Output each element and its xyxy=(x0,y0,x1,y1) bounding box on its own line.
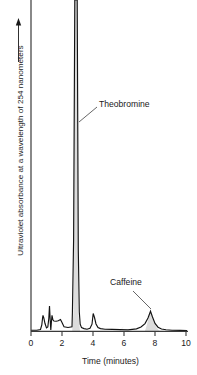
caffeine-leader-line xyxy=(133,291,151,309)
caffeine-peak-label: Caffeine xyxy=(110,277,142,287)
theobromine-leader-line xyxy=(79,107,97,122)
y-axis-label: Ultraviolet absorbance at a wavelength o… xyxy=(16,1,25,301)
x-tick-label-0: 0 xyxy=(22,338,40,348)
x-tick-label-10: 10 xyxy=(177,338,195,348)
chromatogram-plot xyxy=(0,0,197,375)
x-tick-label-4: 4 xyxy=(84,338,102,348)
x-axis-label: Time (minutes) xyxy=(0,356,197,366)
caffeine-peak-fill xyxy=(145,312,160,332)
x-tick-label-8: 8 xyxy=(146,338,164,348)
x-axis-label-text: Time (minutes) xyxy=(58,356,139,366)
chromatogram-figure: Ultraviolet absorbance at a wavelength o… xyxy=(0,0,197,375)
chromatogram-trace xyxy=(31,0,187,331)
theobromine-peak-fill xyxy=(120,326,125,331)
x-tick-label-2: 2 xyxy=(53,338,71,348)
x-tick-label-6: 6 xyxy=(115,338,133,348)
theobromine-peak-label: Theobromine xyxy=(99,99,150,109)
